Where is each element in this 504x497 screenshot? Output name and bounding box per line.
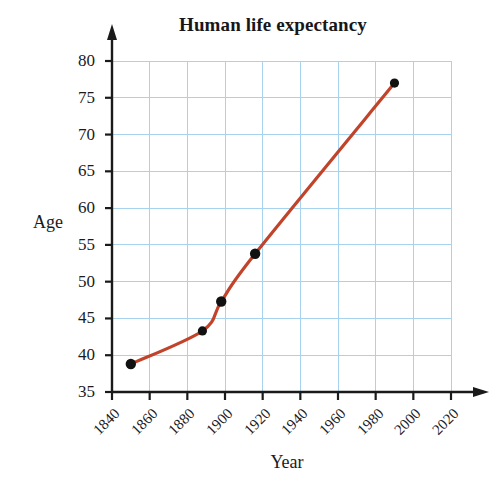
data-point bbox=[390, 78, 399, 87]
y-tick-label: 45 bbox=[57, 309, 95, 326]
data-point bbox=[216, 296, 226, 306]
axes bbox=[107, 24, 489, 397]
y-tick-label: 55 bbox=[57, 236, 95, 253]
y-tick-label: 65 bbox=[57, 162, 95, 179]
data-point bbox=[250, 249, 260, 259]
y-tick-label: 80 bbox=[57, 52, 95, 69]
chart-figure: Human life expectancy Age Year 354045505… bbox=[0, 0, 504, 497]
y-tick-label: 60 bbox=[57, 199, 95, 216]
y-tick-label: 50 bbox=[57, 273, 95, 290]
y-tick-label: 75 bbox=[57, 89, 95, 106]
gridlines bbox=[112, 61, 451, 392]
x-axis-arrow bbox=[473, 387, 489, 397]
data-point bbox=[126, 359, 136, 369]
y-axis-arrow bbox=[107, 24, 117, 40]
data-point bbox=[198, 326, 207, 335]
axis-ticks bbox=[105, 61, 451, 400]
y-tick-label: 70 bbox=[57, 126, 95, 143]
y-tick-label: 40 bbox=[57, 346, 95, 363]
y-tick-label: 35 bbox=[57, 383, 95, 400]
